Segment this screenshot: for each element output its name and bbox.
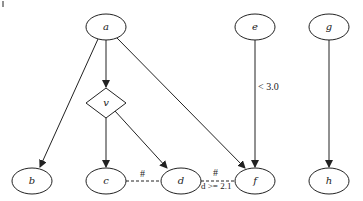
node-b[interactable]: b	[12, 168, 52, 194]
svg-text:e: e	[252, 21, 258, 32]
node-c[interactable]: c	[86, 168, 126, 194]
node-f[interactable]: f	[235, 168, 275, 194]
node-h[interactable]: h	[309, 168, 349, 194]
svg-text:v: v	[103, 97, 109, 108]
edge-label-e-f: < 3.0	[258, 81, 279, 92]
edge-label-d-f-bottom: d >= 2.1	[201, 181, 231, 191]
svg-text:d: d	[178, 175, 184, 186]
node-d[interactable]: d	[161, 168, 201, 194]
svg-text:b: b	[29, 175, 35, 186]
edge-a-f	[117, 38, 245, 168]
svg-text:g: g	[326, 21, 332, 32]
svg-text:a: a	[103, 21, 109, 32]
node-v[interactable]: v	[86, 88, 126, 118]
edge-label-c-d: #	[140, 168, 145, 179]
node-g[interactable]: g	[309, 14, 349, 40]
node-e[interactable]: e	[235, 14, 275, 40]
edge-v-d	[115, 111, 167, 168]
node-a[interactable]: a	[86, 14, 126, 40]
graph-diagram: < 3.0 # # d >= 2.1 a e g v b c d f h	[0, 0, 363, 201]
svg-text:c: c	[103, 175, 109, 186]
svg-text:h: h	[326, 175, 332, 186]
edge-label-d-f-top: #	[213, 167, 218, 178]
